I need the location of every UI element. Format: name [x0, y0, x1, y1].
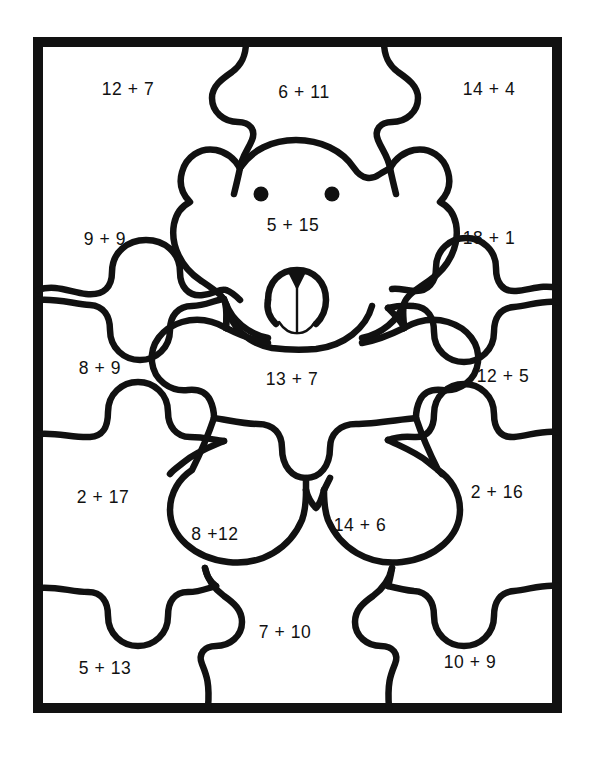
equation-left-lower[interactable]: 2 + 17 [77, 487, 130, 508]
equation-right-middle[interactable]: 12 + 5 [477, 366, 530, 387]
cut-bear-body-to-legs [214, 418, 416, 478]
bear-muzzle-bottom [267, 300, 276, 324]
equation-bear-head[interactable]: 5 + 15 [267, 215, 320, 236]
equation-bottom-middle[interactable]: 7 + 10 [259, 622, 312, 643]
cut-top-left-to-left-upper [38, 240, 226, 295]
cut-left-lower-to-bottom-left [38, 586, 216, 646]
bear-head-crown [240, 140, 390, 178]
bear-torso-right-arm [404, 320, 478, 418]
equation-left-upper[interactable]: 9 + 9 [84, 229, 126, 250]
equation-bottom-left[interactable]: 5 + 13 [79, 658, 132, 679]
equation-top-right[interactable]: 14 + 4 [463, 79, 516, 100]
cut-left-middle-to-bear-arm [224, 299, 227, 328]
bear-left-eye [254, 187, 269, 202]
equation-bear-leg-right[interactable]: 14 + 6 [334, 515, 387, 536]
equation-right-upper[interactable]: 18 + 1 [463, 228, 516, 249]
bear-legs-crotch [306, 490, 324, 508]
equation-bear-leg-left[interactable]: 8 +12 [191, 524, 238, 545]
bear-mouth-smile-right [297, 322, 315, 333]
worksheet-page: 12 + 7 6 + 11 14 + 4 9 + 9 5 + 15 18 + 1… [0, 0, 595, 762]
bear-left-ear-join [234, 168, 240, 194]
cut-under-right-leg [388, 568, 392, 586]
equation-bottom-right[interactable]: 10 + 9 [444, 652, 497, 673]
equation-left-middle[interactable]: 8 + 9 [79, 358, 121, 379]
bear-torso-left-arm [152, 320, 226, 418]
cut-under-left-leg [205, 568, 216, 586]
cut-right-lower-to-bottom-right [388, 586, 557, 646]
equation-top-middle[interactable]: 6 + 11 [278, 82, 329, 103]
equation-bear-body[interactable]: 13 + 7 [266, 369, 319, 390]
cut-left-upper-to-left-middle [38, 299, 224, 360]
bear-right-eye [325, 187, 340, 202]
bear-right-ear-join [390, 168, 396, 194]
equation-right-lower[interactable]: 2 + 16 [471, 482, 524, 503]
cut-left-column-vertical-upper [226, 290, 240, 300]
equation-top-left[interactable]: 12 + 7 [102, 79, 155, 100]
cut-right-upper-to-right-middle [388, 302, 557, 362]
bear-mouth-smile-left [279, 322, 297, 333]
